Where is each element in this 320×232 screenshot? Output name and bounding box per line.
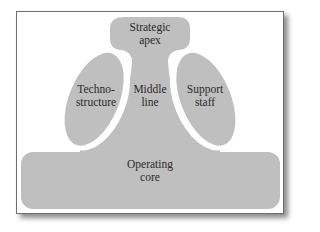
strategic-apex-label: Strategic apex xyxy=(120,21,180,47)
technostructure-label: Techno- structure xyxy=(66,83,126,109)
strategic-apex-line2: apex xyxy=(120,34,180,47)
technostructure-line1: Techno- xyxy=(66,83,126,96)
support-staff-line1: Support xyxy=(175,83,235,96)
middle-line-line1: Middle xyxy=(125,83,175,96)
technostructure-line2: structure xyxy=(66,96,126,109)
support-staff-line2: staff xyxy=(175,96,235,109)
operating-core-label: Operating core xyxy=(115,158,185,184)
operating-core-line2: core xyxy=(115,171,185,184)
middle-line-label: Middle line xyxy=(125,83,175,109)
support-staff-label: Support staff xyxy=(175,83,235,109)
operating-core-line1: Operating xyxy=(115,158,185,171)
strategic-apex-line1: Strategic xyxy=(120,21,180,34)
middle-line-line2: line xyxy=(125,96,175,109)
